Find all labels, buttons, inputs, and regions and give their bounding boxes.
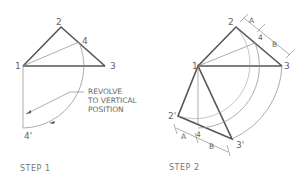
step1-revolve-arc	[23, 42, 84, 128]
step1-label-1: 1	[15, 61, 21, 71]
diagram-canvas: 2 4 1 3 4' REVOLVE TO VERTICAL POSITION …	[0, 0, 308, 180]
step2-caption: STEP 2	[169, 163, 199, 172]
step1-line-1-4	[23, 42, 79, 66]
step2-line-1-4	[198, 43, 255, 66]
step2-label-2prime: 2'	[168, 111, 176, 121]
step2-arc-2	[178, 27, 250, 119]
top-dim-tick	[240, 14, 248, 22]
revolve-note-line2: TO VERTICAL	[87, 96, 138, 105]
step1-label-2: 2	[56, 17, 62, 27]
step1-triangle-sides	[23, 27, 105, 66]
dim-label-b-top: B	[272, 40, 277, 49]
step2-true-shape-triangle	[178, 66, 232, 139]
step1-label-4prime: 4'	[24, 131, 32, 141]
step1-label-3: 3	[110, 61, 116, 71]
revolve-note-line3: POSITION	[88, 105, 124, 114]
leader-arrowhead-icon	[26, 110, 31, 114]
revolve-note-line1: REVOLVE	[88, 87, 122, 96]
step2-triangle-sides	[198, 27, 282, 66]
step2-figure	[174, 14, 294, 156]
top-dim-tick	[286, 50, 294, 58]
step2-label-2: 2	[228, 17, 234, 27]
top-dim-tick	[257, 24, 265, 32]
bottom-dim-tick	[227, 145, 230, 156]
step2-label-1: 1	[192, 61, 198, 71]
step2-label-3: 3	[284, 61, 290, 71]
step1-label-4: 4	[82, 36, 88, 46]
step2-label-4: 4	[258, 33, 263, 42]
step1-leader-line	[26, 92, 84, 114]
dim-label-a-bottom: A	[181, 132, 187, 141]
step1-caption: STEP 1	[20, 164, 50, 173]
bottom-dim-tick	[174, 124, 177, 134]
step2-label-3prime: 3'	[236, 140, 244, 150]
step2-label-4prime: 4	[196, 130, 201, 139]
step2-arc-3	[232, 66, 282, 139]
dim-label-b-bottom: B	[209, 142, 214, 151]
dim-label-a-top: A	[249, 16, 255, 25]
